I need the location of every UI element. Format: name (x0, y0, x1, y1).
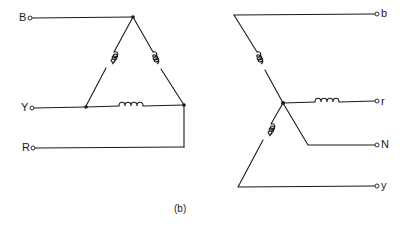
label-r: r (381, 96, 385, 107)
upper-arm-coil-icon (257, 52, 263, 64)
terminal-B-icon (28, 16, 32, 20)
wire-b-lower (234, 14, 375, 15)
wire-y (34, 107, 86, 108)
label-R: R (22, 142, 30, 153)
delta-winding (28, 15, 186, 150)
terminal-n-icon (375, 143, 379, 147)
wire-r-lower (339, 101, 375, 102)
right-leg-coil-icon (153, 52, 159, 64)
label-Y: Y (21, 102, 28, 113)
wire-r (35, 147, 184, 148)
right-arm-coil-icon (315, 98, 339, 102)
wire-b (32, 17, 133, 18)
wire-y-lower (238, 140, 375, 187)
neutral-junction-dot (281, 101, 285, 105)
junction-dot-right (182, 103, 186, 107)
terminal-r-icon (375, 99, 379, 103)
terminal-R-icon (31, 146, 35, 150)
terminal-b-icon (375, 12, 379, 16)
junction-dot-top (131, 15, 135, 19)
label-N: N (381, 139, 389, 150)
label-y: y (381, 180, 387, 191)
figure-caption: (b) (174, 203, 186, 214)
terminal-y-icon (375, 184, 379, 188)
label-B: B (19, 12, 26, 23)
junction-dot-left (84, 105, 88, 109)
bottom-coil-icon (119, 102, 143, 106)
lower-arm-coil-icon (268, 124, 275, 136)
left-leg-coil-icon (111, 52, 118, 64)
circuit-drawing (0, 0, 405, 226)
terminal-Y-icon (30, 106, 34, 110)
label-b: b (381, 8, 387, 19)
star-winding (234, 12, 379, 188)
wire-n (283, 103, 375, 145)
transformer-diagram: B Y R b r N y (b) (0, 0, 405, 226)
